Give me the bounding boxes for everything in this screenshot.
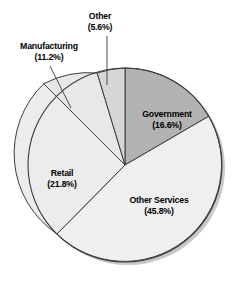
slice-label-retail-name: Retail xyxy=(51,167,74,178)
slice-label-manufacturing: Manufacturing (11.2%) xyxy=(9,40,88,62)
slice-label-manufacturing-name: Manufacturing xyxy=(20,40,78,51)
slice-label-other-name: Other xyxy=(89,10,111,21)
slice-label-manufacturing-percent: (11.2%) xyxy=(9,51,88,62)
slice-label-other-services-percent: (45.8%) xyxy=(119,205,198,216)
slice-label-government-percent: (16.6%) xyxy=(131,119,203,130)
pie-chart: Government (16.6%) Other Services (45.8%… xyxy=(0,0,236,285)
slice-label-other-services-name: Other Services xyxy=(129,194,188,205)
slice-label-government: Government (16.6%) xyxy=(131,108,203,130)
slice-label-other: Other (5.6%) xyxy=(71,10,130,32)
slice-label-government-name: Government xyxy=(142,108,192,119)
slice-label-other-services: Other Services (45.8%) xyxy=(119,194,198,216)
slice-label-other-percent: (5.6%) xyxy=(71,21,130,32)
slice-label-retail: Retail (21.8%) xyxy=(33,167,92,189)
slice-label-retail-percent: (21.8%) xyxy=(33,178,92,189)
